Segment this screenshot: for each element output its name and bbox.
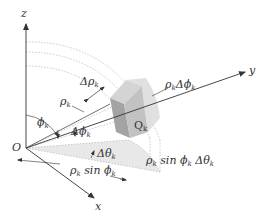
z-axis-label: z: [21, 8, 27, 19]
rho-sin-phi-label: ρk sin ϕk: [70, 165, 116, 178]
q-label: Qk: [134, 120, 147, 133]
diagram-canvas: [0, 0, 267, 218]
rho-delta-phi-label: ρkΔϕk: [165, 79, 195, 92]
origin-label: O: [12, 142, 21, 153]
delta-phi-label: Δϕk: [71, 126, 91, 139]
rho-leader: [72, 106, 84, 112]
rho-label: ρk: [60, 96, 71, 109]
delta-theta-label: Δθk: [97, 148, 116, 161]
phi-label: ϕk: [37, 117, 49, 130]
delta-rho-label: Δρk: [80, 76, 99, 89]
spherical-volume-element-diagram: z y x O Δρk ρk ρkΔϕk Qk ϕk Δϕk Δθk ρk si…: [0, 0, 267, 218]
rho-sin-phi-delta-theta-label: ρk sin ϕk Δθk: [146, 155, 214, 168]
y-axis-label: y: [249, 65, 255, 76]
x-axis-label: x: [95, 201, 101, 212]
